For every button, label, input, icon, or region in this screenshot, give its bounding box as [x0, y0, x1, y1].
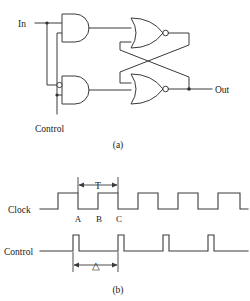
wire-in-to-and-bottom [47, 23, 62, 85]
panel-b-timing-diagram: T Clock A B C Control △ (b) [0, 160, 250, 301]
and-gate-top [62, 14, 89, 42]
dim-arrow-delta-left [74, 263, 80, 268]
dim-arrow-period-left [79, 183, 85, 188]
dim-label-period: T [95, 181, 101, 191]
label-out: Out [215, 85, 230, 95]
inversion-bubble-nor-top-output [163, 30, 169, 36]
inversion-bubble-nor-bottom-output [163, 86, 169, 92]
edge-marker-a: A [75, 214, 82, 224]
label-control: Control [35, 124, 64, 134]
label-control-signal: Control [4, 247, 33, 257]
dim-label-delta: △ [92, 261, 100, 271]
label-clock: Clock [8, 205, 31, 215]
caption-panel-b: (b) [112, 285, 123, 296]
edge-marker-b: B [96, 214, 102, 224]
wire-control-to-and-bottom [57, 95, 62, 114]
waveform-clock [40, 193, 248, 209]
waveform-control [40, 235, 248, 251]
and-gate-bottom [62, 76, 89, 104]
nor-gate-bottom [131, 74, 163, 104]
caption-panel-a: (a) [113, 140, 124, 151]
inversion-bubble-and-bottom-input [57, 82, 62, 87]
label-in: In [18, 19, 26, 29]
dim-arrow-delta-right [112, 263, 118, 268]
nor-gate-top [131, 18, 163, 48]
dim-arrow-period-right [112, 183, 118, 188]
figure-root: In Control Ou [0, 0, 250, 301]
panel-a-circuit-diagram: In Control Ou [0, 0, 250, 160]
edge-marker-c: C [116, 214, 122, 224]
